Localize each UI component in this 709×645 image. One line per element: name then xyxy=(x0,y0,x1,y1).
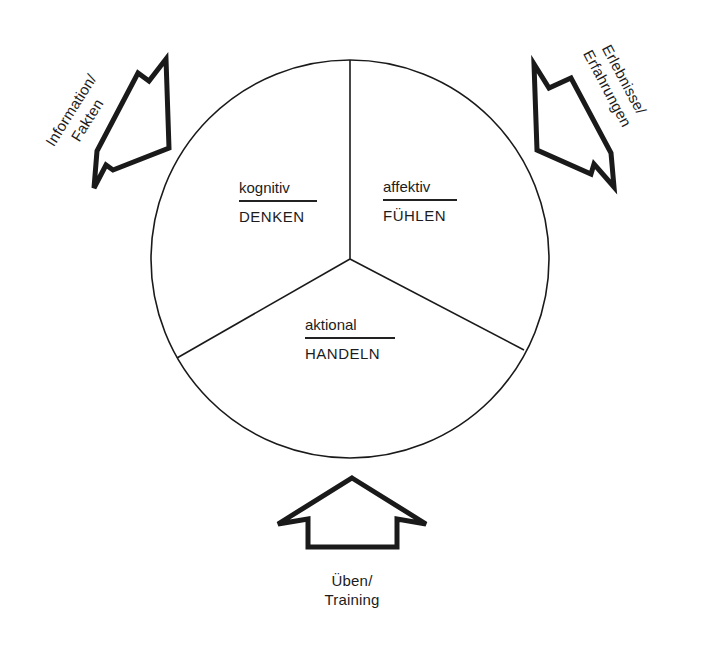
sector-kognitiv-verb: DENKEN xyxy=(239,208,317,225)
sector-aktional-adjective: aktional xyxy=(305,316,395,337)
arrow-information-icon xyxy=(94,59,169,188)
sector-affektiv-adjective: affektiv xyxy=(383,178,457,199)
sector-aktional: aktional HANDELN xyxy=(305,316,395,362)
sector-kognitiv-adjective: kognitiv xyxy=(239,179,317,200)
sector-aktional-rule xyxy=(305,337,395,339)
sector-aktional-verb: HANDELN xyxy=(305,345,395,362)
arrow-ueben-label: Üben/ Training xyxy=(302,572,402,610)
sector-affektiv-verb: FÜHLEN xyxy=(383,207,457,224)
sector-affektiv: affektiv FÜHLEN xyxy=(383,178,457,224)
arrow-ueben-icon xyxy=(278,478,426,547)
sector-affektiv-rule xyxy=(383,199,457,201)
arrow-ueben-line2: Training xyxy=(302,591,402,610)
sector-kognitiv: kognitiv DENKEN xyxy=(239,179,317,225)
arrow-ueben-line1: Üben/ xyxy=(302,572,402,591)
sector-kognitiv-rule xyxy=(239,200,317,202)
